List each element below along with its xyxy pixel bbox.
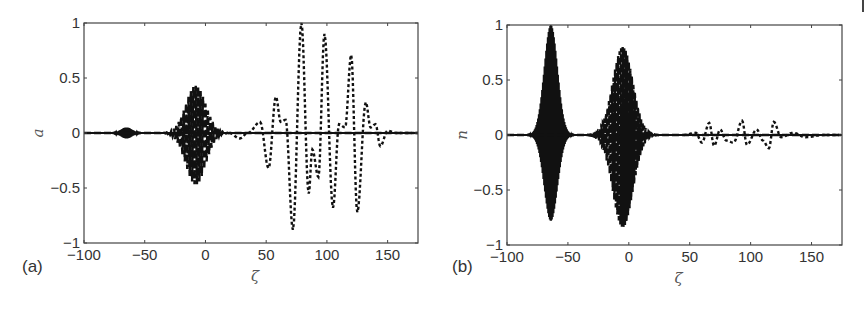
chart-b: −100−50050100150−1−0.500.51ζn(b) [0, 0, 867, 309]
y-axis-label: n [453, 130, 471, 140]
x-axis-label: ζ [674, 269, 683, 287]
x-tick-label: 0 [625, 248, 633, 265]
panel-label: (b) [452, 257, 473, 276]
y-tick-label: 0 [495, 126, 503, 143]
plot-area-b [507, 25, 842, 227]
y-tick-label: 0.5 [482, 71, 503, 88]
x-tick-label: −50 [555, 248, 580, 265]
series-line-1 [507, 25, 842, 221]
y-tick-label: −0.5 [473, 181, 503, 198]
x-tick-label: 50 [681, 248, 698, 265]
y-tick-label: −1 [486, 236, 503, 253]
x-tick-label: 100 [738, 248, 763, 265]
y-tick-label: 1 [495, 16, 503, 33]
x-tick-label: 150 [799, 248, 824, 265]
